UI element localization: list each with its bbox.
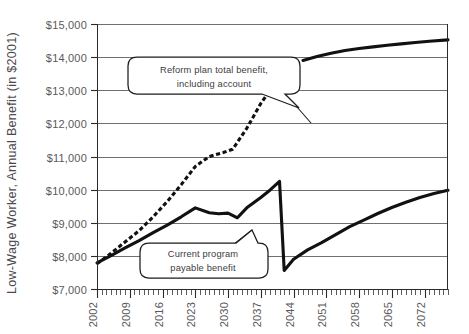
x-tick-label: 2016 (153, 302, 165, 327)
y-tick-label: $13,000 (46, 85, 87, 97)
y-axis-title: Low-Wage Worker, Annual Benefit (in $200… (5, 32, 19, 294)
y-tick-label: $9,000 (52, 218, 87, 230)
y-tick-label: $7,000 (52, 284, 87, 296)
y-tick-label: $14,000 (46, 52, 87, 64)
y-tick-label: $10,000 (46, 185, 87, 197)
x-tick-label: 2058 (349, 302, 361, 327)
current-callout-line1: Current program (168, 249, 239, 259)
x-tick-label: 2044 (284, 302, 296, 327)
low-wage-worker-benefit-chart: Low-Wage Worker, Annual Benefit (in $200… (0, 0, 469, 334)
x-tick-label: 2037 (251, 302, 263, 327)
x-tick-label: 2072 (415, 302, 427, 327)
x-tick-label: 2051 (316, 302, 328, 327)
y-tick-label: $8,000 (52, 251, 87, 263)
chart-container: Low-Wage Worker, Annual Benefit (in $200… (0, 0, 469, 334)
y-axis-tick-labels: $15,000$14,000$13,000$12,000$11,000$10,0… (46, 19, 87, 296)
x-tick-label: 2065 (382, 302, 394, 327)
y-tick-label: $12,000 (46, 118, 87, 130)
x-tick-label: 2030 (218, 302, 230, 327)
reform-callout-line1: Reform plan total benefit, (160, 65, 268, 75)
current-callout-line2: payable benefit (170, 263, 236, 273)
x-tick-label: 2009 (120, 302, 132, 327)
x-tick-label: 2002 (87, 302, 99, 327)
y-tick-label: $15,000 (46, 19, 87, 31)
x-tick-label: 2023 (185, 302, 197, 327)
y-tick-label: $11,000 (47, 152, 87, 164)
reform-callout-line2: including account (177, 79, 252, 89)
